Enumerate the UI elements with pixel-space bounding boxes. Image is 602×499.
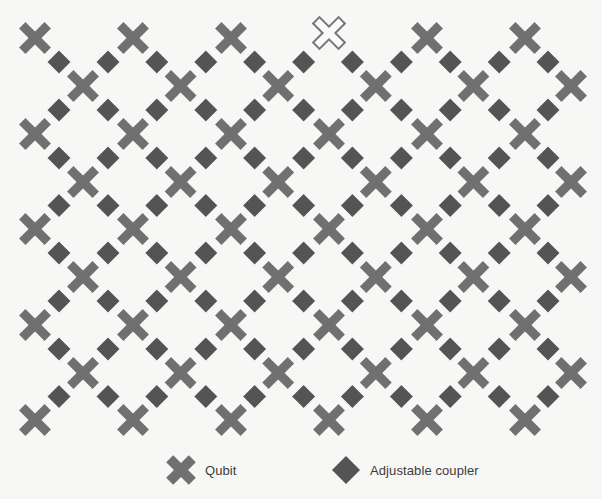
adjustable-coupler [47,193,72,218]
adjustable-coupler [340,98,365,123]
adjustable-coupler [47,289,72,314]
adjustable-coupler [291,289,316,314]
adjustable-coupler [96,146,121,171]
adjustable-coupler [291,384,316,409]
adjustable-coupler [340,337,365,362]
adjustable-coupler [487,193,512,218]
adjustable-coupler [438,193,463,218]
adjustable-coupler [193,337,218,362]
adjustable-coupler [487,289,512,314]
adjustable-coupler [536,337,561,362]
adjustable-coupler [242,146,267,171]
adjustable-coupler [389,98,414,123]
adjustable-coupler [47,50,72,75]
adjustable-coupler [438,337,463,362]
adjustable-coupler [47,384,72,409]
adjustable-coupler [47,337,72,362]
adjustable-coupler [96,98,121,123]
adjustable-coupler [438,289,463,314]
adjustable-coupler [487,337,512,362]
qubit-cross-icon [165,454,197,486]
adjustable-coupler [291,98,316,123]
adjustable-coupler [242,241,267,266]
adjustable-coupler [193,50,218,75]
adjustable-coupler [487,146,512,171]
adjustable-coupler [291,193,316,218]
adjustable-coupler [536,241,561,266]
adjustable-coupler [389,241,414,266]
adjustable-coupler [242,98,267,123]
adjustable-coupler [340,384,365,409]
defective-qubit [304,8,355,59]
qubit-lattice-diagram [0,0,602,450]
adjustable-coupler [144,98,169,123]
legend-item-qubit: Qubit [165,452,237,488]
adjustable-coupler [340,193,365,218]
adjustable-coupler [193,289,218,314]
adjustable-coupler [340,289,365,314]
adjustable-coupler [438,146,463,171]
adjustable-coupler [340,146,365,171]
adjustable-coupler [438,50,463,75]
adjustable-coupler [487,241,512,266]
adjustable-coupler [96,384,121,409]
adjustable-coupler [144,337,169,362]
adjustable-coupler [340,241,365,266]
adjustable-coupler [536,193,561,218]
legend-label-coupler: Adjustable coupler [370,463,479,478]
legend: Qubit Adjustable coupler [0,452,602,488]
adjustable-coupler [144,241,169,266]
adjustable-coupler [291,241,316,266]
adjustable-coupler [340,50,365,75]
adjustable-coupler [389,193,414,218]
adjustable-coupler [96,337,121,362]
adjustable-coupler [96,241,121,266]
adjustable-coupler [536,384,561,409]
adjustable-coupler [242,289,267,314]
adjustable-coupler [487,98,512,123]
adjustable-coupler [291,337,316,362]
adjustable-coupler [144,193,169,218]
adjustable-coupler [536,50,561,75]
adjustable-coupler [389,146,414,171]
adjustable-coupler [438,384,463,409]
adjustable-coupler [144,146,169,171]
adjustable-coupler [487,50,512,75]
adjustable-coupler [389,337,414,362]
adjustable-coupler [291,50,316,75]
adjustable-coupler [96,193,121,218]
adjustable-coupler [193,384,218,409]
adjustable-coupler [144,289,169,314]
legend-item-coupler: Adjustable coupler [330,452,479,488]
adjustable-coupler [536,98,561,123]
adjustable-coupler [242,384,267,409]
adjustable-coupler [47,146,72,171]
adjustable-coupler [96,289,121,314]
adjustable-coupler [242,337,267,362]
adjustable-coupler [291,146,316,171]
adjustable-coupler [438,241,463,266]
adjustable-coupler [438,98,463,123]
adjustable-coupler [193,241,218,266]
adjustable-coupler [389,50,414,75]
adjustable-coupler [242,50,267,75]
coupler-diamond-icon [330,454,362,486]
adjustable-coupler [193,193,218,218]
adjustable-coupler [144,50,169,75]
adjustable-coupler [47,241,72,266]
adjustable-coupler [96,50,121,75]
coupler-layer [47,50,561,410]
adjustable-coupler [536,146,561,171]
legend-label-qubit: Qubit [205,463,237,478]
adjustable-coupler [193,98,218,123]
adjustable-coupler [389,289,414,314]
adjustable-coupler [242,193,267,218]
adjustable-coupler [47,98,72,123]
adjustable-coupler [144,384,169,409]
adjustable-coupler [536,289,561,314]
adjustable-coupler [193,146,218,171]
adjustable-coupler [389,384,414,409]
adjustable-coupler [487,384,512,409]
